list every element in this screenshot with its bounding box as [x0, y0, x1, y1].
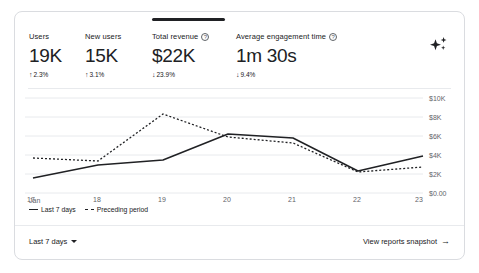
metric-label: Users — [29, 32, 62, 42]
metrics-divider — [28, 88, 451, 89]
revenue-overview-card: Users 19K ↑ 2.3% New users 15K ↑ 3.1% To… — [14, 11, 465, 260]
arrow-right-icon: → — [441, 237, 450, 246]
metric-label: Total revenue — [152, 32, 209, 42]
xtick-label: 18 — [93, 196, 101, 202]
help-circle-icon[interactable] — [201, 33, 209, 41]
metric-label-text: Total revenue — [152, 32, 198, 42]
legend-swatch-dashed-icon — [85, 209, 94, 210]
xaxis-month-label: Jan — [29, 197, 40, 204]
metric-delta: ↑ 3.1% — [85, 70, 121, 79]
arrow-up-icon: ↑ — [85, 71, 89, 78]
arrow-up-icon: ↑ — [29, 71, 33, 78]
view-reports-label: View reports snapshot — [363, 237, 437, 246]
ytick-label: $0.00 — [429, 190, 447, 197]
date-range-selector[interactable]: Last 7 days — [29, 237, 77, 246]
metric-delta-value: 2.3% — [34, 70, 49, 79]
metric-label-text: New users — [85, 32, 121, 42]
metric-delta: ↑ 2.3% — [29, 70, 62, 79]
chart-svg: $10K $8K $6K $4K $2K $0.00 17 18 19 20 2… — [15, 90, 466, 202]
metric-card-new-users[interactable]: New users 15K ↑ 3.1% — [85, 32, 121, 79]
chevron-down-icon — [71, 240, 77, 243]
metric-value: 1m 30s — [236, 44, 337, 67]
ytick-label: $8K — [429, 114, 442, 121]
xtick-label: 21 — [288, 196, 296, 202]
metric-value: 19K — [29, 44, 62, 67]
ytick-label: $10K — [429, 95, 446, 102]
ytick-label: $6K — [429, 133, 442, 140]
chart-legend: Last 7 days Preceding period — [29, 206, 148, 213]
sparkle-icon[interactable] — [429, 36, 451, 56]
metric-delta: ↓ 23.9% — [152, 70, 209, 79]
legend-swatch-solid-icon — [29, 209, 38, 210]
legend-label: Last 7 days — [41, 206, 76, 213]
arrow-down-icon: ↓ — [152, 71, 156, 78]
card-footer: Last 7 days View reports snapshot → — [15, 226, 464, 260]
metric-delta-value: 3.1% — [90, 70, 105, 79]
metric-delta-value: 23.9% — [157, 70, 175, 79]
ytick-label: $2K — [429, 171, 442, 178]
metric-value: 15K — [85, 44, 121, 67]
chart-gridlines — [25, 98, 423, 193]
xtick-label: 20 — [223, 196, 231, 202]
metric-delta: ↓ 9.4% — [236, 70, 337, 79]
active-metric-indicator — [152, 18, 225, 21]
metrics-row: Users 19K ↑ 2.3% New users 15K ↑ 3.1% To… — [15, 12, 464, 84]
series-preceding-period — [33, 114, 423, 172]
legend-item-preceding-period: Preceding period — [85, 206, 148, 213]
xtick-label: 23 — [415, 196, 423, 202]
xtick-label: 22 — [353, 196, 361, 202]
metric-label: Average engagement time — [236, 32, 337, 42]
metric-card-total-revenue[interactable]: Total revenue $22K ↓ 23.9% — [152, 32, 209, 79]
metric-card-users[interactable]: Users 19K ↑ 2.3% — [29, 32, 62, 79]
metric-label-text: Users — [29, 32, 49, 42]
legend-item-last-7-days: Last 7 days — [29, 206, 76, 213]
xtick-label: 19 — [158, 196, 166, 202]
revenue-line-chart: $10K $8K $6K $4K $2K $0.00 17 18 19 20 2… — [15, 90, 466, 202]
metric-value: $22K — [152, 44, 209, 67]
metric-card-average-engagement-time[interactable]: Average engagement time 1m 30s ↓ 9.4% — [236, 32, 337, 79]
view-reports-snapshot-link[interactable]: View reports snapshot → — [363, 237, 450, 246]
help-circle-icon[interactable] — [329, 33, 337, 41]
metric-delta-value: 9.4% — [241, 70, 256, 79]
legend-label: Preceding period — [97, 206, 148, 213]
ytick-label: $4K — [429, 152, 442, 159]
arrow-down-icon: ↓ — [236, 71, 240, 78]
metric-label-text: Average engagement time — [236, 32, 326, 42]
chart-xtick-labels: 17 18 19 20 21 22 23 — [27, 196, 423, 202]
metric-label: New users — [85, 32, 121, 42]
date-range-label: Last 7 days — [29, 237, 67, 246]
chart-ytick-labels: $10K $8K $6K $4K $2K $0.00 — [429, 95, 447, 197]
